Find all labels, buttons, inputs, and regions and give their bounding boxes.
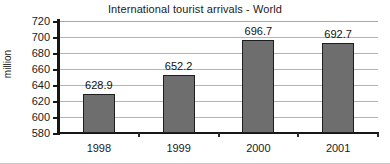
y-axis-tick xyxy=(53,37,59,39)
bar xyxy=(242,40,274,133)
bar xyxy=(83,94,115,133)
y-axis-tick xyxy=(53,69,59,71)
y-axis-tick-label: 660 xyxy=(16,63,50,75)
x-axis-tick-label: 2001 xyxy=(308,142,368,155)
bar-value-label: 652.2 xyxy=(149,60,209,73)
y-axis-tick-label: 600 xyxy=(16,111,50,123)
x-axis-tick-label: 1999 xyxy=(149,142,209,155)
y-axis-tick-label: 720 xyxy=(16,15,50,27)
bar-value-label: 696.7 xyxy=(228,25,288,38)
bar-value-label: 628.9 xyxy=(69,79,129,92)
x-axis-tick xyxy=(297,133,299,137)
x-axis-tick xyxy=(218,133,220,137)
x-axis-tick-label: 2000 xyxy=(228,142,288,155)
gridline xyxy=(59,21,378,22)
bar xyxy=(322,43,354,133)
y-axis-title: million xyxy=(2,38,14,90)
y-axis-tick-label: 640 xyxy=(16,79,50,91)
y-axis-tick-label: 680 xyxy=(16,47,50,59)
chart-title: International tourist arrivals - World xyxy=(0,2,390,16)
y-axis-tick xyxy=(53,133,59,135)
bar xyxy=(163,75,195,133)
y-axis-tick xyxy=(53,85,59,87)
x-axis-tick xyxy=(138,133,140,137)
y-axis-tick xyxy=(53,117,59,119)
x-axis-tick-label: 1998 xyxy=(69,142,129,155)
y-axis-tick xyxy=(53,21,59,23)
x-axis-tick xyxy=(377,133,379,137)
bar-value-label: 692.7 xyxy=(308,28,368,41)
y-axis-tick xyxy=(53,101,59,103)
y-axis-tick-label: 620 xyxy=(16,95,50,107)
y-axis-tick-label: 580 xyxy=(16,127,50,139)
bar-chart: International tourist arrivals - World m… xyxy=(0,0,390,164)
y-axis-tick-label: 700 xyxy=(16,31,50,43)
y-axis-tick xyxy=(53,53,59,55)
